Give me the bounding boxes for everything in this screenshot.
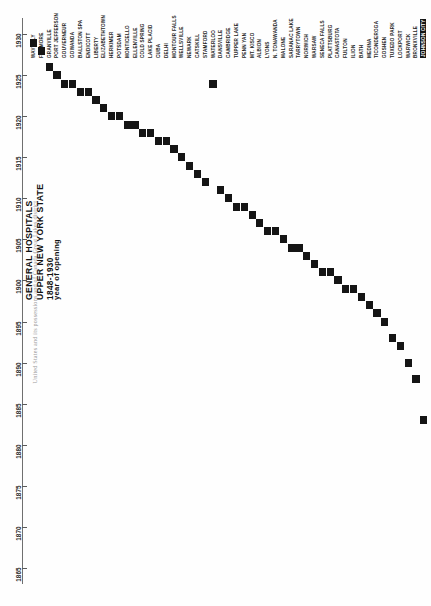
year-bar [350, 285, 357, 293]
city-label: GOSHEN [382, 37, 387, 58]
axis-tick [22, 527, 27, 528]
year-bar [295, 244, 302, 252]
city-label: WATERLOO [211, 30, 216, 58]
year-bar [46, 63, 53, 71]
axis-tick [22, 34, 27, 35]
city-label: TARRYTOWN [296, 26, 301, 58]
axis-tick-label: 1870 [15, 526, 22, 552]
year-bar [366, 301, 373, 309]
year-bar [420, 416, 427, 424]
city-label: JOHNSON CITY [420, 19, 426, 58]
city-label: MEDINA [367, 38, 372, 58]
city-label: CUBA [156, 44, 161, 58]
year-bar [288, 244, 295, 252]
city-label: WARWICK [406, 33, 411, 58]
year-bar [108, 112, 115, 120]
year-bar [69, 80, 76, 88]
axis-tick [22, 157, 27, 158]
axis-tick [22, 568, 27, 569]
city-label: ELIZABETHTOWN [101, 15, 106, 58]
city-label: TUXEDO PARK [390, 22, 395, 58]
year-bar [373, 309, 380, 317]
city-label: NEWARK [187, 36, 192, 58]
title-line-2: UPPER NEW YORK STATE [35, 184, 45, 300]
city-label: WELLSVILLE [179, 26, 184, 58]
year-bar [147, 129, 154, 137]
year-bar [241, 203, 248, 211]
year-bar [170, 145, 177, 153]
year-bar [280, 235, 287, 243]
year-bar [264, 227, 271, 235]
axis-tick-label: 1890 [15, 362, 22, 388]
city-label-row: WAVERLYFILLMOREGRANVILLEPORT JEFFERSONGO… [30, 0, 428, 60]
year-bar [116, 112, 123, 120]
city-label: PORT JEFFERSON [54, 13, 59, 58]
city-label: PLATTSBURG [328, 24, 333, 58]
year-bar [155, 137, 162, 145]
year-bar [412, 375, 419, 383]
year-bar [389, 334, 396, 342]
city-label: BATH [359, 45, 364, 58]
year-bar [61, 80, 68, 88]
city-label: ELLENVILLE [133, 27, 138, 58]
year-bar [38, 47, 45, 55]
axis-tick-label: 1885 [15, 403, 22, 429]
year-bar [178, 153, 185, 161]
axis-tick-label: 1895 [15, 321, 22, 347]
year-bar [131, 121, 138, 129]
axis-tick-label: 1925 [15, 75, 22, 101]
year-bar [209, 80, 216, 88]
city-label: MONTOUR FALLS [172, 15, 177, 58]
city-label: LOCKPORT [398, 30, 403, 58]
axis-tick [22, 75, 27, 76]
y-axis-label: year of opening [52, 239, 61, 300]
city-label: TUPPER LAKE [234, 23, 239, 58]
city-label: BALLSTON SPA [78, 20, 83, 58]
year-bar [217, 186, 224, 194]
city-label: MT. KISCO [250, 33, 255, 58]
year-bar [100, 104, 107, 112]
axis-tick [22, 322, 27, 323]
city-label: SENECA FALLS [320, 20, 325, 58]
city-label: ILION [351, 45, 356, 59]
city-label: HERKIMER [109, 31, 114, 58]
year-bar [163, 137, 170, 145]
year-bar [327, 268, 334, 276]
axis-tick-label: 1905 [15, 239, 22, 265]
axis-tick [22, 486, 27, 487]
city-label: GOWANDA [70, 32, 75, 58]
city-label: STAMFORD [203, 30, 208, 58]
year-bar [256, 219, 263, 227]
axis-tick-label: 1880 [15, 444, 22, 470]
title-line-1: GENERAL HOSPITALS [24, 184, 34, 300]
year-bar [186, 162, 193, 170]
city-label: MONTICELLO [125, 25, 130, 58]
city-label: SARANAC LAKE [289, 18, 294, 58]
city-label: LAKE PLACID [148, 24, 153, 58]
city-label: BRONXVILLE [413, 26, 418, 58]
year-bar [233, 203, 240, 211]
city-label: LIBERTY [94, 37, 99, 58]
city-label: LYONS [265, 41, 270, 58]
year-bar [194, 170, 201, 178]
year-bar [272, 227, 279, 235]
year-bar [397, 342, 404, 350]
year-bar [319, 268, 326, 276]
city-label: TICONDEROGA [374, 21, 379, 58]
year-axis-line [22, 18, 23, 584]
chart-title-block: GENERAL HOSPITALS UPPER NEW YORK STATE 1… [24, 184, 55, 300]
year-bar [92, 96, 99, 104]
axis-tick [22, 445, 27, 446]
year-bar [202, 178, 209, 186]
year-bar [342, 285, 349, 293]
city-label: WARSAW [312, 35, 317, 58]
city-label: CANASTOTA [335, 27, 340, 58]
chart-plot-area [30, 60, 428, 530]
year-bar [30, 39, 37, 47]
city-label: ENDICOTT [86, 33, 91, 58]
city-label: COLD SPRING [140, 23, 145, 58]
axis-tick-label: 1910 [15, 198, 22, 224]
axis-tick-label: 1915 [15, 157, 22, 183]
year-bar [303, 252, 310, 260]
city-label: CAMBRIDGE [226, 27, 231, 58]
